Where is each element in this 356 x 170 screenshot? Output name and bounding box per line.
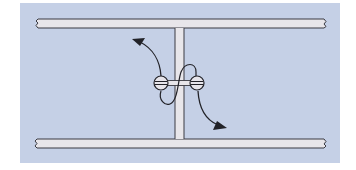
bottom-bar [35, 139, 326, 148]
right-screw-icon [190, 76, 204, 90]
top-bar [36, 19, 326, 28]
left-screw-icon [154, 76, 168, 90]
diagram-canvas [0, 0, 356, 170]
